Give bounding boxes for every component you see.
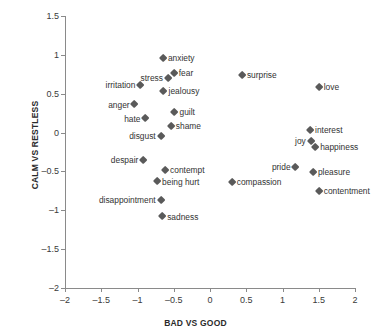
y-tick-label: –1.5: [41, 244, 59, 254]
diamond-marker-icon: [311, 143, 320, 152]
data-point-label: guilt: [179, 108, 194, 116]
data-point-label: contentment: [324, 187, 370, 195]
y-tick-mark: [61, 16, 65, 17]
data-point-label: sadness: [167, 213, 198, 221]
data-point-label: fear: [179, 69, 193, 77]
diamond-marker-icon: [156, 132, 165, 141]
y-tick-mark: [61, 171, 65, 172]
x-tick-label: –1.5: [92, 295, 110, 305]
data-point-label: interest: [315, 126, 342, 134]
diamond-marker-icon: [141, 114, 150, 123]
y-tick-mark: [61, 55, 65, 56]
diamond-marker-icon: [308, 168, 317, 177]
data-point-label: anxiety: [168, 54, 195, 62]
x-tick-label: –2: [60, 295, 70, 305]
diamond-marker-icon: [291, 162, 300, 171]
x-tick-mark: [138, 288, 139, 292]
diamond-marker-icon: [170, 108, 179, 117]
data-point-label: happiness: [320, 143, 358, 151]
y-tick-label: 1.5: [46, 11, 59, 21]
x-tick-mark: [355, 288, 356, 292]
y-tick-label: 0.5: [46, 89, 59, 99]
data-point-label: irritation: [106, 81, 136, 89]
x-axis-title: BAD VS GOOD: [0, 318, 391, 328]
x-tick-mark: [283, 288, 284, 292]
data-point-label: disappointment: [99, 196, 156, 204]
y-tick-label: –2: [49, 283, 59, 293]
diamond-marker-icon: [130, 100, 139, 109]
x-tick-mark: [319, 288, 320, 292]
x-tick-label: –1: [132, 295, 142, 305]
x-tick-label: 1.5: [312, 295, 325, 305]
data-point-label: being hurt: [162, 178, 199, 186]
y-tick-mark: [61, 94, 65, 95]
data-point-label: pride: [272, 163, 291, 171]
scatter-plot-figure: CALM VS RESTLESS BAD VS GOOD 1.510.50–0.…: [0, 0, 391, 335]
data-point-label: jealousy: [169, 87, 200, 95]
data-point-label: despair: [111, 156, 138, 164]
diamond-marker-icon: [314, 83, 323, 92]
diamond-marker-icon: [227, 178, 236, 187]
data-point-label: pleasure: [318, 168, 350, 176]
plot-area: 1.510.50–0.5–1–1.5–2 –2–1.5–1–0.500.511.…: [65, 16, 355, 288]
x-tick-mark: [174, 288, 175, 292]
diamond-marker-icon: [237, 71, 246, 80]
x-tick-mark: [101, 288, 102, 292]
caption-strip: [0, 329, 391, 335]
y-tick-label: 0: [54, 128, 59, 138]
x-tick-label: –0.5: [165, 295, 183, 305]
y-tick-mark: [61, 210, 65, 211]
data-point-label: compassion: [237, 178, 282, 186]
x-tick-label: 0.5: [240, 295, 253, 305]
data-point-label: hate: [124, 115, 140, 123]
y-axis-title: CALM VS RESTLESS: [30, 55, 40, 235]
x-tick-label: 1: [280, 295, 285, 305]
diamond-marker-icon: [314, 186, 323, 195]
x-tick-mark: [65, 288, 66, 292]
diamond-marker-icon: [166, 122, 175, 131]
diamond-marker-icon: [156, 196, 165, 205]
diamond-marker-icon: [159, 87, 168, 96]
data-point-label: disgust: [129, 132, 156, 140]
diamond-marker-icon: [158, 212, 167, 221]
x-tick-label: 2: [352, 295, 357, 305]
x-tick-mark: [210, 288, 211, 292]
y-tick-label: –0.5: [41, 166, 59, 176]
y-tick-mark: [61, 249, 65, 250]
x-tick-label: 0: [207, 295, 212, 305]
diamond-marker-icon: [139, 155, 148, 164]
data-point-label: love: [324, 83, 339, 91]
data-point-label: surprise: [247, 71, 277, 79]
y-tick-mark: [61, 133, 65, 134]
diamond-marker-icon: [306, 126, 315, 135]
diamond-marker-icon: [161, 165, 170, 174]
data-point-label: shame: [176, 122, 201, 130]
x-tick-mark: [246, 288, 247, 292]
data-point-label: joy: [295, 137, 306, 145]
y-axis-line: [65, 16, 66, 288]
diamond-marker-icon: [153, 177, 162, 186]
data-point-label: anger: [108, 101, 129, 109]
y-tick-label: –1: [49, 205, 59, 215]
data-point-label: stress: [141, 74, 163, 82]
y-tick-label: 1: [54, 50, 59, 60]
diamond-marker-icon: [158, 53, 167, 62]
data-point-label: contempt: [170, 166, 204, 174]
